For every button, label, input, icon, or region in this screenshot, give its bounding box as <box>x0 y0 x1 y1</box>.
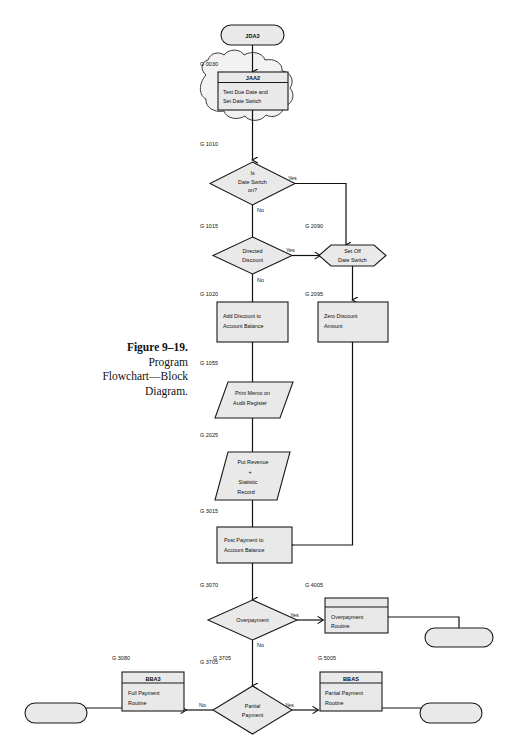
partial-payment-line2: Payment <box>242 712 264 718</box>
overpayment-routine-line1: Overpayment <box>331 614 364 620</box>
put-revenue-line4: Record <box>237 489 254 495</box>
end-terminator-left <box>25 703 87 723</box>
node-set-off-date-switch: Set Off Date Switch <box>319 245 386 266</box>
print-memo-line1: Print Memo on <box>235 390 270 396</box>
overpayment-line1: Overpayment <box>236 617 269 623</box>
connector-overpayment-routine-to-terminator <box>388 617 459 628</box>
overpayment-routine-line2: Routine <box>331 623 350 629</box>
full-payment-line1: Full Payment <box>128 690 160 696</box>
node-print-memo: Print Memo on Audit Register <box>215 382 293 418</box>
figure-title-line3: Diagram. <box>145 385 188 397</box>
put-revenue-line3: Statistic <box>239 479 258 485</box>
post-payment-line2: Account Balance <box>224 547 264 553</box>
date-switch-line1: Is <box>250 170 254 176</box>
node-full-payment-routine: BBA3 Full Payment Routine <box>122 672 184 711</box>
step-ref-g5005: G 5005 <box>318 655 336 661</box>
node-post-payment: Post Payment to Account Balance <box>217 527 292 563</box>
branch-label-partial-yes: Yes <box>285 702 294 708</box>
directed-discount-line1: Directed <box>242 248 262 254</box>
node-partial-payment-routine: BBAS Partial Payment Routine <box>320 672 382 711</box>
step-ref-g4005: G 4005 <box>305 582 323 588</box>
date-switch-line2: Date Switch <box>238 179 267 185</box>
set-off-line1: Set Off <box>344 248 361 254</box>
start-terminator-label: JDA3 <box>245 33 259 39</box>
node-add-discount: Add Discount to Account Balance <box>217 302 288 342</box>
step-ref-g1055: G 1055 <box>200 360 218 366</box>
node-overpayment-decision: Overpayment <box>208 600 297 640</box>
connector-dateswitch-yes <box>295 184 346 246</box>
step-ref-g3070: G 3070 <box>200 582 218 588</box>
branch-label-date-switch-yes: Yes <box>288 175 297 181</box>
print-memo-line2: Audit Register <box>233 400 267 406</box>
partial-payment-routine-line1: Partial Payment <box>325 690 364 696</box>
step-ref-g1015: G 1015 <box>200 223 218 229</box>
node-date-switch-decision: Is Date Switch on? <box>210 162 295 205</box>
put-revenue-line1: Put Revenue <box>237 459 268 465</box>
step-ref-g2095: G 2095 <box>305 291 323 297</box>
step-ref-g3015: G 3015 <box>200 508 218 514</box>
figure-title-line2: Flowchart—Block <box>102 370 188 382</box>
directed-discount-line2: Discount <box>242 257 263 263</box>
partial-payment-routine-line2: Routine <box>325 700 344 706</box>
figure-number: Figure 9–19. <box>127 341 188 353</box>
full-payment-line2: Routine <box>128 700 147 706</box>
full-payment-header: BBA3 <box>145 676 160 682</box>
flowchart-figure: JDA3 JAA2 Test Due Date and Set Date Swi… <box>0 0 505 755</box>
end-terminator-right-top <box>425 628 493 647</box>
zero-discount-line2: Amount <box>324 323 343 329</box>
node-zero-discount: Zero Discount Amount <box>318 302 388 342</box>
figure-caption: Figure 9–19. Program Flowchart—Block Dia… <box>18 340 188 398</box>
end-terminator-right <box>420 703 482 723</box>
node-jaa2-module: JAA2 Test Due Date and Set Date Switch <box>218 72 288 110</box>
add-discount-line1: Add Discount to <box>223 313 261 319</box>
step-ref-g3080: G 3080 <box>112 655 130 661</box>
post-payment-line1: Post Payment to <box>224 537 264 543</box>
connector-zerodiscount-to-postpayment <box>292 342 353 545</box>
date-switch-line3: on? <box>248 187 257 193</box>
branch-label-directed-yes: Yes <box>286 247 295 253</box>
put-revenue-line2: + <box>248 469 251 475</box>
step-ref-g0030: G 0030 <box>200 61 218 67</box>
node-overpayment-routine: Overpayment Routine <box>325 598 388 633</box>
add-discount-line2: Account Balance <box>223 323 263 329</box>
partial-payment-line1: Partial <box>245 703 260 709</box>
step-ref-g1020: G 1020 <box>200 291 218 297</box>
step-ref-g1010: G 1010 <box>200 141 218 147</box>
set-off-line2: Date Switch <box>338 257 367 263</box>
figure-title-line1: Program <box>148 356 188 368</box>
start-terminator: JDA3 <box>221 25 284 45</box>
partial-payment-routine-header: BBAS <box>343 676 359 682</box>
node-partial-payment-decision: Partial Payment <box>213 686 292 734</box>
branch-label-date-switch-no: No <box>257 207 264 213</box>
step-ref-g2090: G 2090 <box>305 223 323 229</box>
node-put-revenue: Put Revenue + Statistic Record <box>215 452 290 500</box>
zero-discount-line1: Zero Discount <box>324 313 358 319</box>
branch-label-directed-no: No <box>257 277 264 283</box>
node-directed-discount-decision: Directed Discount <box>213 237 292 274</box>
branch-label-partial-no: No <box>199 702 206 708</box>
jaa2-body-line1: Test Due Date and <box>223 89 268 95</box>
jaa2-body-line2: Set Date Switch <box>223 98 261 104</box>
step-ref-g3705: G 3705 <box>213 655 231 661</box>
jaa2-header-label: JAA2 <box>246 75 260 81</box>
branch-label-overpayment-no: No <box>257 642 264 648</box>
branch-label-overpayment-yes: Yes <box>290 612 299 618</box>
step-ref-g2025: G 2025 <box>200 432 218 438</box>
